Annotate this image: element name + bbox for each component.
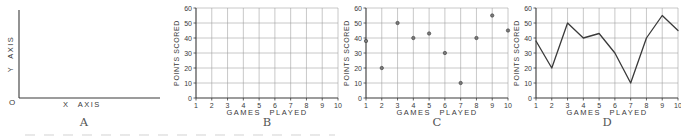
svg-text:10: 10	[354, 80, 362, 87]
panel-d-line-graph: POINTS SCORED 123456789100102030405060 G…	[510, 0, 681, 138]
svg-text:30: 30	[354, 50, 362, 57]
svg-text:0: 0	[358, 95, 362, 102]
svg-text:60: 60	[354, 5, 362, 12]
panel-letter: A	[64, 115, 104, 129]
svg-text:50: 50	[354, 20, 362, 27]
panel-letter: D	[587, 115, 627, 129]
panel-c-scatter-plot: POINTS SCORED 123456789100102030405060 G…	[340, 0, 511, 138]
svg-text:30: 30	[524, 50, 532, 57]
panel-a-blank-axes: Y AXIS O X AXIS A	[0, 0, 171, 138]
x-axis-label: X AXIS	[22, 100, 142, 109]
panel-letter: B	[247, 115, 287, 129]
panel-b-empty-grid: POINTS SCORED 123456789100102030405060 G…	[170, 0, 341, 138]
svg-text:10: 10	[524, 80, 532, 87]
svg-text:60: 60	[524, 5, 532, 12]
svg-text:0: 0	[528, 95, 532, 102]
svg-text:10: 10	[184, 80, 192, 87]
origin-label: O	[9, 98, 15, 107]
svg-text:20: 20	[184, 65, 192, 72]
panel-letter: C	[417, 115, 457, 129]
svg-text:50: 50	[184, 20, 192, 27]
svg-text:20: 20	[354, 65, 362, 72]
svg-text:40: 40	[354, 35, 362, 42]
svg-text:60: 60	[184, 5, 192, 12]
svg-text:30: 30	[184, 50, 192, 57]
svg-text:20: 20	[524, 65, 532, 72]
svg-text:40: 40	[524, 35, 532, 42]
svg-text:50: 50	[524, 20, 532, 27]
svg-text:0: 0	[188, 95, 192, 102]
scan-artifact-cropped-caption	[25, 134, 335, 136]
four-panel-graphing-figure: Y AXIS O X AXIS A POINTS SCORED 12345678…	[0, 0, 681, 138]
svg-text:40: 40	[184, 35, 192, 42]
